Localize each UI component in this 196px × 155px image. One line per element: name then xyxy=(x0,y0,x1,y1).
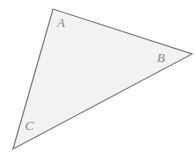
vertex-label-a: A xyxy=(57,16,65,29)
geometry-figure: A B C xyxy=(0,0,196,155)
triangle-abc-shape xyxy=(13,9,192,149)
vertex-label-b: B xyxy=(157,51,165,64)
vertex-label-c: C xyxy=(25,119,34,132)
